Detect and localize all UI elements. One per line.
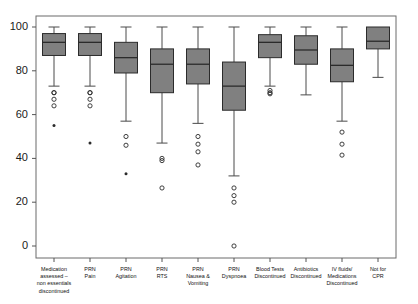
box-iqr [79,34,102,56]
boxplot-chart: 020406080100 Medicationassessed –non ess… [0,0,418,304]
x-tick-label-line: Nausea & [186,273,210,279]
x-tick-label-line: PRN [120,266,131,272]
boxplot-figure: 020406080100 Medicationassessed –non ess… [0,0,418,304]
box-iqr [151,49,174,93]
x-tick-label-line: Blood Tests [256,266,284,272]
extreme-outlier-point [125,172,128,175]
x-tick-label-line: non essentials [37,280,72,286]
x-tick-label-line: Agitation [116,273,137,279]
x-tick-label-line: PRN [156,266,167,272]
x-tick-label-line: Antibiotics [294,266,319,272]
x-tick-label: PRNPain [84,266,95,279]
x-tick-label-line: Discontinued [326,280,357,286]
x-tick-label-line: assessed – [40,273,67,279]
x-tick-label-line: CPR [372,273,383,279]
y-tick-label: 100 [10,20,28,32]
box-iqr [187,49,210,84]
box-iqr [43,34,66,56]
x-tick-label-line: IV fluids/ [332,266,353,272]
box-iqr [259,35,282,58]
x-tick-label-line: Discontinued [254,273,285,279]
extreme-outlier-point [53,124,56,127]
x-tick-label-line: Pain [85,273,96,279]
y-tick-label: 20 [16,195,28,207]
x-tick-label-line: Vomiting [188,280,209,286]
extreme-outlier-point [89,142,92,145]
box-iqr [367,27,390,49]
x-tick-label-line: PRN [228,266,239,272]
x-tick-label-line: Medications [328,273,357,279]
y-tick-label: 0 [22,239,28,251]
x-tick-label-line: PRN [84,266,95,272]
x-tick-label-line: RTS [157,273,168,279]
y-tick-label: 40 [16,151,28,163]
x-tick-label: AntibioticsDiscontinued [290,266,321,279]
x-tick-label-line: discontinued [39,288,69,294]
x-tick-label-line: Dyspnoea [222,273,246,279]
x-tick-label-line: Discontinued [290,273,321,279]
x-tick-label: Blood TestsDiscontinued [254,266,285,279]
y-tick-label: 80 [16,64,28,76]
x-tick-label-line: Not for [370,266,386,272]
x-tick-label: PRNRTS [156,266,167,279]
y-tick-label: 60 [16,108,28,120]
x-tick-label-line: Medication [41,266,67,272]
x-tick-label: Medicationassessed –non essentialsdiscon… [37,266,72,294]
x-tick-label-line: PRN [192,266,203,272]
